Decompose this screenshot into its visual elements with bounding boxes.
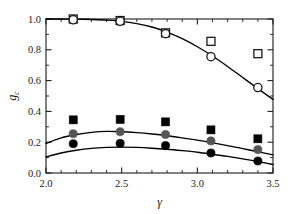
- marker-filled-squares: [116, 115, 124, 123]
- marker-filled-squares: [69, 116, 77, 124]
- marker-gray-circles: [116, 128, 124, 136]
- y-tick-label: 0.0: [28, 168, 41, 179]
- marker-filled-squares: [254, 135, 262, 143]
- marker-open-squares: [254, 50, 262, 58]
- marker-black-circles: [161, 141, 169, 149]
- marker-gray-circles: [69, 130, 77, 138]
- marker-black-circles: [254, 157, 262, 165]
- x-tick-label: 3.0: [191, 178, 204, 189]
- marker-open-circles: [69, 16, 77, 24]
- marker-gray-circles: [254, 145, 262, 153]
- y-tick-label: 0.2: [28, 137, 41, 148]
- marker-open-circles: [207, 53, 215, 61]
- marker-open-circles: [116, 17, 124, 25]
- x-tick-label: 3.5: [266, 178, 279, 189]
- marker-black-circles: [69, 140, 77, 148]
- y-tick-label: 0.4: [28, 106, 42, 117]
- marker-gray-circles: [161, 130, 169, 138]
- marker-gray-circles: [207, 137, 215, 145]
- chart-figure: 2.02.53.03.50.00.20.40.60.81.0γgc: [0, 0, 290, 214]
- marker-open-circles: [161, 30, 169, 38]
- y-tick-label: 0.8: [28, 44, 41, 55]
- marker-filled-squares: [162, 118, 170, 126]
- marker-filled-squares: [207, 126, 215, 134]
- marker-black-circles: [116, 139, 124, 147]
- marker-black-circles: [207, 149, 215, 157]
- x-tick-label: 2.5: [115, 178, 128, 189]
- x-tick-label: 2.0: [39, 178, 52, 189]
- marker-open-circles: [254, 83, 262, 91]
- y-tick-label: 1.0: [28, 14, 41, 25]
- marker-open-squares: [207, 37, 215, 45]
- y-tick-label: 0.6: [28, 75, 41, 86]
- x-axis-title: γ: [157, 195, 162, 209]
